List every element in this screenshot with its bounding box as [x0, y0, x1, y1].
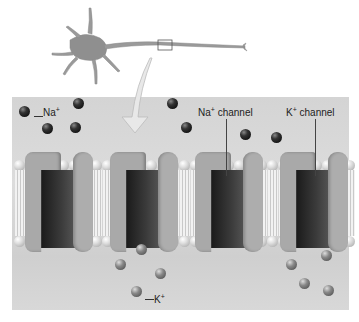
- potassium-ion: [299, 278, 310, 289]
- k-channel-leader: [315, 119, 316, 176]
- channel-subunit: [328, 152, 348, 252]
- ion-channel: [110, 152, 178, 252]
- channel-pore: [41, 170, 75, 248]
- sodium-ion: [181, 122, 192, 133]
- potassium-ion: [286, 259, 297, 270]
- lipid-tail: [15, 170, 25, 236]
- channel-subunit: [73, 152, 93, 252]
- lipid-tail: [180, 170, 190, 236]
- channel-subunit: [243, 152, 263, 252]
- sodium-ion: [167, 98, 178, 109]
- lipid-head: [179, 236, 190, 247]
- zoom-arrow-icon: [100, 55, 160, 135]
- na-ion-label: Na+: [43, 106, 60, 118]
- potassium-ion: [115, 259, 126, 270]
- potassium-ion: [321, 250, 332, 261]
- na-channel: [195, 152, 263, 252]
- na-channel-leader: [226, 119, 227, 176]
- channel-pore: [211, 170, 245, 248]
- potassium-ion: [131, 286, 142, 297]
- k-channel: [280, 152, 348, 252]
- potassium-ion: [323, 285, 334, 296]
- na-channel-label: Na+ channel: [198, 106, 253, 118]
- sodium-ion: [271, 132, 282, 143]
- lipid-head: [14, 236, 25, 247]
- sodium-ion: [240, 129, 251, 140]
- na-ion-leader: [34, 116, 43, 117]
- channel-pore: [296, 170, 330, 248]
- sodium-ion: [19, 106, 30, 117]
- ion-channel: [25, 152, 93, 252]
- neuron-illustration: [0, 0, 359, 100]
- lipid-head: [267, 236, 278, 247]
- channel-subunit: [158, 152, 178, 252]
- sodium-ion: [70, 122, 81, 133]
- k-channel-label: K+ channel: [286, 106, 335, 118]
- potassium-ion: [155, 268, 166, 279]
- channel-pore: [126, 170, 160, 248]
- lipid-tail: [92, 170, 102, 236]
- potassium-ion: [136, 244, 147, 255]
- sodium-ion: [42, 123, 53, 134]
- sodium-ion: [73, 98, 84, 109]
- lipid-tail: [268, 170, 278, 236]
- k-ion-label: K+: [154, 293, 165, 305]
- k-ion-leader: [145, 299, 154, 300]
